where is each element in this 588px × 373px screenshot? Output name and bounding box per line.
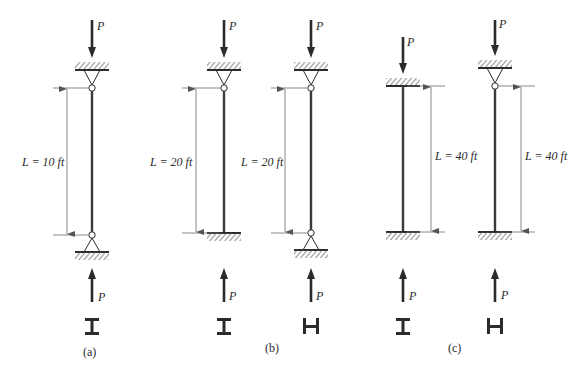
i-beam-section-icon bbox=[217, 318, 231, 335]
load-arrow-top-head bbox=[88, 47, 96, 58]
i-beam-section-icon bbox=[396, 318, 410, 335]
top-support-hatch bbox=[478, 60, 512, 68]
load-arrow-top-head bbox=[491, 45, 499, 56]
column-buckling-figure: L = 10 ft L = 20 ft L = 20 ft L = 40 ft … bbox=[0, 0, 588, 373]
flange-right bbox=[316, 318, 319, 334]
load-arrow-bottom-head bbox=[307, 268, 315, 279]
column-a1 bbox=[53, 20, 109, 335]
web bbox=[91, 318, 94, 334]
pin-joint-top bbox=[89, 85, 95, 91]
i-beam-section-icon bbox=[85, 318, 99, 335]
load-label-c2-bottom: P bbox=[500, 288, 509, 302]
length-label-c1: L = 40 ft bbox=[434, 149, 478, 163]
pin-joint-top bbox=[221, 85, 227, 91]
bottom-support-hatch bbox=[294, 250, 328, 258]
pin-triangle-top bbox=[487, 68, 503, 83]
top-fixed-support-hatch bbox=[386, 78, 420, 86]
h-beam-section-icon bbox=[303, 318, 319, 334]
load-label-c1-bottom: P bbox=[408, 289, 417, 303]
load-label-a-top: P bbox=[96, 19, 105, 33]
web bbox=[402, 318, 405, 334]
group-label-a: (a) bbox=[83, 345, 96, 359]
pin-triangle-bottom bbox=[303, 236, 319, 250]
load-label-c2-top: P bbox=[498, 17, 507, 31]
column-b1 bbox=[182, 20, 241, 335]
load-label-a-bottom: P bbox=[97, 290, 106, 304]
pin-joint-top bbox=[308, 85, 314, 91]
top-support-hatch bbox=[207, 62, 241, 70]
load-arrow-bottom-head bbox=[399, 268, 407, 279]
top-support-hatch bbox=[75, 62, 109, 70]
length-labels: L = 10 ft L = 20 ft L = 20 ft L = 40 ft … bbox=[21, 149, 568, 169]
column-b2 bbox=[271, 20, 328, 334]
length-label-a: L = 10 ft bbox=[21, 155, 65, 169]
flange-bottom bbox=[217, 332, 231, 335]
load-label-b2-top: P bbox=[315, 19, 324, 33]
pin-triangle-bottom bbox=[84, 238, 100, 252]
load-arrow-top-head bbox=[307, 47, 315, 58]
flange-right bbox=[500, 318, 503, 334]
pin-triangle-top bbox=[216, 70, 232, 85]
flange-bottom bbox=[85, 332, 99, 335]
load-label-b2-bottom: P bbox=[315, 289, 324, 303]
bottom-support-hatch bbox=[75, 252, 109, 260]
group-labels: (a) (b) (c) bbox=[83, 341, 461, 359]
load-arrow-top-head bbox=[220, 47, 228, 58]
web bbox=[223, 318, 226, 334]
load-arrow-bottom-head bbox=[491, 268, 499, 279]
length-label-c2: L = 40 ft bbox=[524, 149, 568, 163]
load-label-b1-top: P bbox=[228, 19, 237, 33]
load-arrow-bottom-head bbox=[88, 268, 96, 279]
figure-canvas: L = 10 ft L = 20 ft L = 20 ft L = 40 ft … bbox=[0, 0, 588, 373]
bottom-fixed-support-hatch bbox=[207, 233, 241, 241]
pin-triangle-top bbox=[303, 70, 319, 85]
length-label-b1: L = 20 ft bbox=[149, 155, 193, 169]
bottom-fixed-support-hatch bbox=[478, 232, 512, 240]
h-beam-section-icon bbox=[487, 318, 503, 334]
pin-triangle-top bbox=[84, 70, 100, 85]
top-support-hatch bbox=[294, 62, 328, 70]
pin-joint-top bbox=[492, 83, 498, 89]
column-c2 bbox=[478, 20, 535, 334]
load-arrow-top-head bbox=[399, 63, 407, 74]
group-label-b: (b) bbox=[265, 341, 279, 355]
length-label-b2: L = 20 ft bbox=[240, 155, 284, 169]
group-label-c: (c) bbox=[448, 341, 461, 355]
flange-bottom bbox=[396, 332, 410, 335]
load-label-b1-bottom: P bbox=[228, 289, 237, 303]
bottom-fixed-support-hatch bbox=[386, 232, 420, 240]
load-arrow-bottom-head bbox=[220, 268, 228, 279]
load-label-c1-top: P bbox=[406, 35, 415, 49]
